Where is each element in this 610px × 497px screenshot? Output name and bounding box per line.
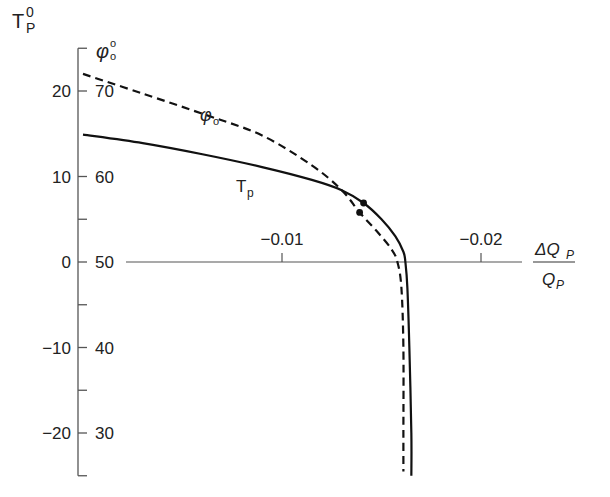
x-axis-label-denominator: Q — [542, 270, 555, 289]
series-marker-tp — [360, 200, 367, 207]
x-axis-label-numerator-sub: P — [566, 248, 574, 262]
y-left-axis-label-sub: P — [26, 20, 35, 36]
y-left-tick-label: 10 — [52, 168, 71, 187]
y-right-tick-label: 40 — [95, 339, 114, 358]
chart: 20701060050−1040−2030−0.01−0.02 T 0 P φ … — [0, 0, 610, 497]
series-group — [83, 74, 411, 476]
x-axis-label-numerator: ΔQ — [534, 240, 560, 259]
series-label-tp: T — [236, 177, 246, 196]
series-marker-phi-o — [356, 209, 363, 216]
y-left-axis-label: T — [12, 10, 24, 32]
y-left-tick-label: −10 — [42, 339, 71, 358]
series-label-phi: φ — [200, 105, 212, 125]
x-tick-label: −0.02 — [459, 230, 502, 249]
y-right-axis-label: φ — [96, 40, 109, 62]
y-right-tick-label: 50 — [95, 253, 114, 272]
axes: 20701060050−1040−2030−0.01−0.02 — [42, 48, 522, 476]
y-left-tick-label: 20 — [52, 82, 71, 101]
series-label-phi-sub: o — [213, 115, 219, 127]
y-left-tick-label: 0 — [62, 253, 71, 272]
x-tick-label: −0.01 — [260, 230, 303, 249]
y-left-axis-label-sup: 0 — [26, 4, 34, 20]
y-right-tick-label: 30 — [95, 424, 114, 443]
y-right-axis-label-sup: o — [110, 37, 116, 49]
y-right-axis-label-sub: o — [110, 50, 116, 62]
y-right-tick-label: 70 — [95, 82, 114, 101]
series-label-tp-sub: p — [247, 186, 254, 200]
y-right-tick-label: 60 — [95, 168, 114, 187]
x-axis-label-denominator-sub: P — [556, 278, 564, 292]
y-left-tick-label: −20 — [42, 424, 71, 443]
series-line-phi-o — [83, 74, 404, 472]
